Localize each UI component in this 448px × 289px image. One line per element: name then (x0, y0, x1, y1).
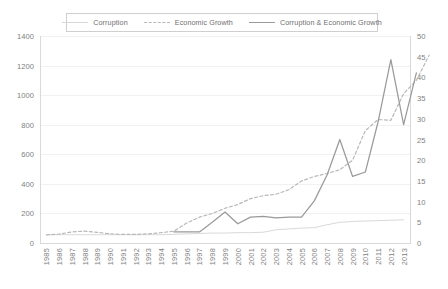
y-axis-right-tick-label: 35 (417, 94, 447, 103)
x-axis-tick-label: 2013 (400, 248, 409, 265)
y-axis-right-tick-label: 0 (417, 239, 447, 248)
y-axis-left-tick-label: 1400 (2, 32, 34, 41)
x-axis-tick-label: 2008 (336, 248, 345, 265)
x-axis-tick-label: 1986 (55, 248, 64, 265)
x-axis-tick-label: 1993 (144, 248, 153, 265)
y-axis-right-tick-label: 40 (417, 73, 447, 82)
chart-container: Corruption Economic Growth Corruption & … (0, 0, 448, 289)
y-axis-right-tick-label: 10 (417, 197, 447, 206)
legend-label-corruption-and-economic-growth: Corruption & Economic Growth (280, 18, 382, 27)
y-axis-right-tick-label: 30 (417, 114, 447, 123)
y-axis-left-tick-label: 1000 (2, 91, 34, 100)
y-axis-right-tick-label: 50 (417, 32, 447, 41)
legend-swatch-economic-growth-icon (144, 22, 170, 23)
y-axis-left-tick-label: 600 (2, 150, 34, 159)
y-axis-right-tick-label: 20 (417, 156, 447, 165)
x-axis-tick-label: 2009 (349, 248, 358, 265)
x-axis-tick-label: 1988 (81, 248, 90, 265)
y-axis-left-tick-label: 0 (2, 239, 34, 248)
x-axis-tick-label: 2003 (272, 248, 281, 265)
legend-label-economic-growth: Economic Growth (175, 18, 233, 27)
x-axis-tick-label: 2005 (298, 248, 307, 265)
legend-item-corruption: Corruption (62, 18, 128, 27)
series-line-corruption-economic-growth (174, 60, 416, 232)
chart-plot-area (40, 36, 410, 243)
y-axis-right-tick-label: 5 (417, 218, 447, 227)
y-axis-left-tick-label: 800 (2, 120, 34, 129)
chart-legend: Corruption Economic Growth Corruption & … (66, 13, 378, 32)
x-axis-tick-label: 2012 (387, 248, 396, 265)
y-axis-left-tick-label: 200 (2, 209, 34, 218)
x-axis-tick-label: 1997 (195, 248, 204, 265)
legend-item-economic-growth: Economic Growth (144, 18, 233, 27)
x-axis-tick-label: 1994 (157, 248, 166, 265)
x-axis-tick-label: 2004 (285, 248, 294, 265)
x-axis-tick-label: 2002 (259, 248, 268, 265)
legend-swatch-corruption-icon (62, 22, 88, 23)
y-axis-left-tick-label: 400 (2, 179, 34, 188)
x-axis-tick-label: 2011 (374, 248, 383, 265)
x-axis-line (40, 243, 411, 244)
x-axis-tick-label: 1995 (170, 248, 179, 265)
x-axis-tick-label: 1999 (221, 248, 230, 265)
x-axis-tick-label: 1996 (183, 248, 192, 265)
legend-swatch-corruption-and-economic-growth-icon (249, 22, 275, 23)
x-axis-tick-label: 2001 (247, 248, 256, 265)
x-axis-tick-label: 1987 (68, 248, 77, 265)
x-axis-tick-label: 1990 (106, 248, 115, 265)
x-axis-tick-label: 2010 (361, 248, 370, 265)
y-axis-right-line (410, 36, 411, 243)
y-axis-right-tick-label: 15 (417, 176, 447, 185)
x-axis-tick-label: 1991 (119, 248, 128, 265)
y-axis-left-tick-label: 1200 (2, 61, 34, 70)
x-axis-tick-label: 2006 (310, 248, 319, 265)
x-axis-tick-label: 1998 (208, 248, 217, 265)
legend-item-corruption-and-economic-growth: Corruption & Economic Growth (249, 18, 382, 27)
x-axis-tick-label: 1992 (132, 248, 141, 265)
y-axis-right-tick-label: 25 (417, 135, 447, 144)
x-axis-tick-label: 1985 (42, 248, 51, 265)
legend-label-corruption: Corruption (93, 18, 128, 27)
y-axis-right-tick-label: 45 (417, 52, 447, 61)
x-axis-tick-label: 2007 (323, 248, 332, 265)
x-axis-tick-label: 1989 (93, 248, 102, 265)
x-axis-tick-label: 2000 (234, 248, 243, 265)
